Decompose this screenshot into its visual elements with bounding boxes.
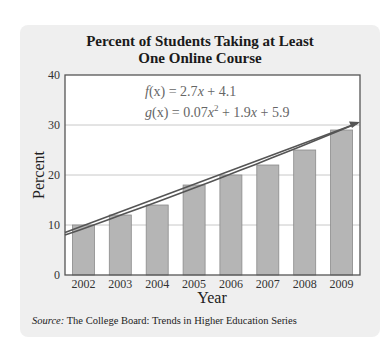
chart-svg: 0 10 20 30 40 20022003200420052006200720… xyxy=(0,0,390,350)
eq-g-name: g xyxy=(145,105,152,120)
y-axis-ticks: 0 10 20 30 40 xyxy=(48,68,60,282)
x-tick: 2002 xyxy=(71,277,95,291)
x-tick: 2004 xyxy=(145,277,169,291)
y-axis-label: Percent xyxy=(30,150,47,199)
x-tick: 2008 xyxy=(293,277,317,291)
bar-2005 xyxy=(183,185,205,275)
eq-f-rhs-post: + 4.1 xyxy=(204,84,236,99)
y-tick: 0 xyxy=(54,268,60,282)
source-text: The College Board: Trends in Higher Educ… xyxy=(64,315,297,326)
bar-2002 xyxy=(72,225,94,275)
equation-g: g(x) = 0.07x2 + 1.9x + 5.9 xyxy=(145,100,289,121)
x-tick: 2009 xyxy=(330,277,354,291)
bar-2006 xyxy=(220,175,242,275)
x-axis-label: Year xyxy=(197,289,227,306)
source-label: Source: xyxy=(32,315,64,326)
y-tick: 30 xyxy=(48,118,60,132)
bar-2003 xyxy=(109,215,131,275)
x-tick: 2007 xyxy=(256,277,280,291)
eq-g-rhs-post: + 5.9 xyxy=(257,105,289,120)
eq-g-mid: + 1.9 xyxy=(218,105,250,120)
y-tick: 20 xyxy=(48,168,60,182)
equation-f: f(x) = 2.7x + 4.1 xyxy=(145,84,236,100)
x-tick: 2003 xyxy=(108,277,132,291)
eq-g-rhs-pre: = 0.07 xyxy=(168,105,207,120)
y-tick: 10 xyxy=(48,218,60,232)
y-tick: 40 xyxy=(48,68,60,82)
eq-f-rhs-pre: = 2.7 xyxy=(165,84,197,99)
bar-2009 xyxy=(331,130,353,275)
eq-f-arg: (x) xyxy=(149,84,165,99)
eq-g-arg: (x) xyxy=(152,105,168,120)
bar-2004 xyxy=(146,205,168,275)
bar-2008 xyxy=(294,150,316,275)
bar-2007 xyxy=(257,165,279,275)
source-note: Source: The College Board: Trends in Hig… xyxy=(32,315,297,326)
